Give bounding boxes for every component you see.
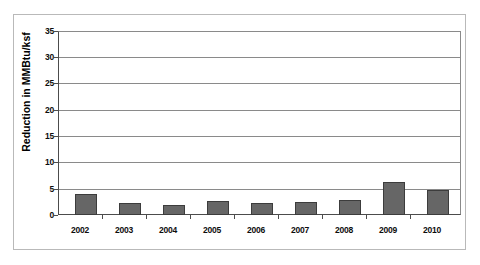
bar-2010[interactable] — [427, 190, 449, 215]
x-tick-mark — [366, 215, 367, 219]
x-tick-label-2005: 2005 — [190, 225, 234, 235]
bar-2002[interactable] — [75, 194, 97, 215]
x-tick-mark — [278, 215, 279, 219]
x-tick-label-2003: 2003 — [102, 225, 146, 235]
y-tick-label: 35 — [26, 27, 54, 36]
y-tick-label: 0 — [26, 211, 54, 220]
bar-2005[interactable] — [207, 201, 229, 215]
y-tick-label: 5 — [26, 185, 54, 194]
x-tick-label-2007: 2007 — [278, 225, 322, 235]
bar-2009[interactable] — [383, 182, 405, 215]
y-tick-label: 30 — [26, 53, 54, 62]
x-tick-mark — [410, 215, 411, 219]
chart-figure: Reduction in MMBtu/ksf 35 30 25 20 15 10… — [0, 0, 480, 265]
bar-2007[interactable] — [295, 202, 317, 215]
y-tick-label: 20 — [26, 106, 54, 115]
bar-2008[interactable] — [339, 200, 361, 215]
bar-2004[interactable] — [163, 205, 185, 216]
y-tick-mark — [53, 215, 58, 216]
x-tick-label-2009: 2009 — [366, 225, 410, 235]
x-tick-label-2010: 2010 — [410, 225, 454, 235]
x-tick-label-2006: 2006 — [234, 225, 278, 235]
bar-2006[interactable] — [251, 203, 273, 215]
x-tick-mark — [234, 215, 235, 219]
x-tick-label-2002: 2002 — [58, 225, 102, 235]
x-tick-mark — [146, 215, 147, 219]
x-tick-label-2008: 2008 — [322, 225, 366, 235]
y-tick-label: 10 — [26, 158, 54, 167]
x-tick-label-2004: 2004 — [146, 225, 190, 235]
y-tick-label: 25 — [26, 79, 54, 88]
x-tick-mark — [190, 215, 191, 219]
x-tick-mark — [102, 215, 103, 219]
y-tick-label: 15 — [26, 132, 54, 141]
bar-2003[interactable] — [119, 203, 141, 215]
x-tick-mark — [322, 215, 323, 219]
bar-series — [58, 31, 461, 215]
y-axis-ticks: 35 30 25 20 15 10 5 0 — [20, 0, 54, 265]
